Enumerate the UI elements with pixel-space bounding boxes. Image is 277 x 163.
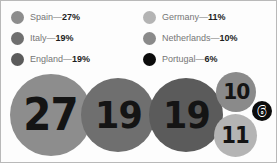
legend-percent-germany: 11%: [208, 12, 226, 22]
bubble-value-england: 19: [163, 96, 210, 134]
bubble-value-netherlands: 10: [223, 81, 249, 103]
legend-swatch-spain: [11, 11, 24, 24]
legend-label-netherlands: Netherlands—10%: [162, 33, 238, 43]
legend-country-netherlands: Netherlands: [162, 33, 211, 43]
legend-dash-portugal: —: [196, 54, 205, 64]
legend-swatch-portugal: [143, 53, 156, 66]
legend-label-italy: Italy—19%: [30, 33, 74, 43]
legend-item-england: England—19%: [11, 50, 141, 68]
legend-percent-netherlands: 10%: [220, 33, 238, 43]
legend-label-germany: Germany—11%: [162, 12, 226, 22]
legend-country-italy: Italy: [30, 33, 47, 43]
bubble-italy: 19: [81, 78, 155, 152]
legend-column-left: Spain—27% Italy—19% England—19%: [11, 8, 141, 71]
bubble-field: 27 19 19 10 11 6: [1, 69, 277, 163]
legend-item-germany: Germany—11%: [143, 8, 273, 26]
bubble-chart-infographic: Spain—27% Italy—19% England—19%: [0, 0, 277, 163]
legend-country-spain: Spain: [30, 12, 53, 22]
bubble-spain: 27: [10, 74, 92, 156]
bubble-portugal: 6: [252, 101, 272, 121]
legend-dash-italy: —: [47, 33, 56, 43]
legend-label-spain: Spain—27%: [30, 12, 80, 22]
legend-item-italy: Italy—19%: [11, 29, 141, 47]
legend-percent-portugal: 6%: [205, 54, 218, 64]
legend-label-portugal: Portugal—6%: [162, 54, 218, 64]
legend-percent-spain: 27%: [62, 12, 80, 22]
bubble-value-germany: 11: [222, 124, 250, 147]
legend-label-england: England—19%: [30, 54, 90, 64]
legend-dash-spain: —: [53, 12, 62, 22]
legend-item-netherlands: Netherlands—10%: [143, 29, 273, 47]
legend-swatch-germany: [143, 11, 156, 24]
bubble-value-spain: 27: [24, 93, 78, 137]
legend-dash-england: —: [63, 54, 72, 64]
legend-swatch-england: [11, 53, 24, 66]
legend: Spain—27% Italy—19% England—19%: [1, 1, 277, 69]
legend-column-right: Germany—11% Netherlands—10% Portugal—6%: [143, 8, 273, 71]
legend-country-england: England: [30, 54, 63, 64]
bubble-value-italy: 19: [95, 96, 142, 134]
legend-dash-netherlands: —: [211, 33, 220, 43]
bubble-value-portugal: 6: [258, 104, 267, 118]
legend-percent-england: 19%: [72, 54, 90, 64]
legend-swatch-netherlands: [143, 32, 156, 45]
legend-swatch-italy: [11, 32, 24, 45]
legend-percent-italy: 19%: [56, 33, 74, 43]
legend-country-germany: Germany: [162, 12, 199, 22]
legend-item-spain: Spain—27%: [11, 8, 141, 26]
bubble-germany: 11: [214, 114, 257, 157]
legend-country-portugal: Portugal: [162, 54, 196, 64]
bubble-england: 19: [149, 78, 223, 152]
legend-item-portugal: Portugal—6%: [143, 50, 273, 68]
bubble-netherlands: 10: [216, 72, 256, 112]
legend-dash-germany: —: [199, 12, 208, 22]
